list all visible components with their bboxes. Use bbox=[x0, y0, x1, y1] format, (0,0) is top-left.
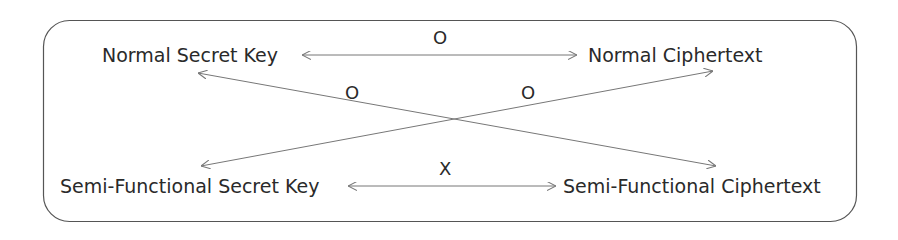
node-semi-functional-ciphertext: Semi-Functional Ciphertext bbox=[563, 175, 821, 197]
node-normal-ciphertext: Normal Ciphertext bbox=[588, 44, 762, 66]
edge-diag-up-label: O bbox=[521, 83, 535, 103]
node-normal-secret-key: Normal Secret Key bbox=[102, 44, 278, 66]
edge-diag-down-label: O bbox=[345, 83, 359, 103]
node-semi-functional-secret-key: Semi-Functional Secret Key bbox=[60, 175, 319, 197]
edge-bottom-label: X bbox=[439, 159, 451, 179]
edge-top-label: O bbox=[433, 28, 447, 48]
